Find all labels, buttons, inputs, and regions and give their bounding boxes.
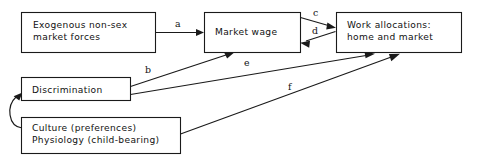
edge-label-f: f: [288, 81, 293, 92]
edge-label-e: e: [244, 57, 250, 68]
node-exogenous-label-line2: market forces: [33, 32, 100, 42]
edge-a-arrowhead: [196, 29, 204, 36]
edge-label-c: c: [313, 7, 318, 18]
edge-label-a: a: [175, 18, 181, 29]
node-culture-label-line1: Culture (preferences): [32, 123, 136, 133]
edge-label-d: d: [312, 25, 318, 36]
node-discrimination-label: Discrimination: [32, 85, 103, 95]
edge-c: [301, 18, 337, 30]
node-exogenous[interactable]: Exogenous non-sex market forces: [22, 13, 156, 53]
edge-f-arrowhead: [389, 54, 400, 61]
edge-culture-to-discrimination: [10, 93, 23, 129]
edge-loop-curve: [10, 97, 22, 129]
node-work-allocations-label-line1: Work allocations:: [347, 20, 431, 30]
diagram-canvas: Exogenous non-sex market forces Market w…: [0, 0, 484, 167]
edge-d-arrowhead: [300, 41, 310, 48]
node-discrimination[interactable]: Discrimination: [22, 78, 131, 101]
node-exogenous-label-line1: Exogenous non-sex: [33, 20, 128, 30]
edge-label-b: b: [145, 64, 151, 75]
edge-c-arrowhead: [326, 23, 336, 30]
diagram-svg: Exogenous non-sex market forces Market w…: [0, 0, 484, 167]
node-work-allocations[interactable]: Work allocations: home and market: [337, 13, 462, 53]
node-market-wage[interactable]: Market wage: [205, 13, 301, 53]
edge-f: [181, 54, 401, 134]
node-market-wage-label: Market wage: [215, 27, 277, 37]
edge-a: [156, 29, 205, 36]
edge-e: [131, 51, 376, 94]
node-work-allocations-label-line2: home and market: [347, 32, 433, 42]
node-culture-label-line2: Physiology (child-bearing): [32, 135, 159, 145]
node-culture[interactable]: Culture (preferences) Physiology (child-…: [22, 118, 181, 154]
edge-f-line: [181, 56, 395, 134]
edge-d-line: [306, 32, 336, 42]
